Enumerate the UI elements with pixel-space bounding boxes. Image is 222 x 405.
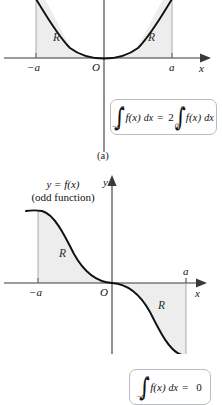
panel-odd-function: y = f(x) (odd function) R R −a O a x y ∫…	[0, 170, 222, 354]
integrand-1: f(x)	[150, 381, 165, 393]
integral-upper-limit-1: a	[145, 373, 149, 382]
integrand-2: f(x)	[186, 111, 201, 123]
integral-upper-limit-1: a	[120, 103, 124, 112]
integral-lower-limit-2: 0	[175, 122, 179, 131]
differential-1: dx	[169, 382, 178, 393]
x-axis-label: x	[195, 288, 200, 299]
integral-symbol-1: ∫ a −a	[113, 104, 124, 130]
integrand-1: f(x)	[125, 111, 140, 123]
differential-2: dx	[204, 112, 213, 123]
shaded-region-left	[36, 0, 104, 58]
equals-sign: =	[182, 381, 188, 393]
region-label-right: R	[158, 300, 165, 312]
formula-result: 0	[196, 381, 202, 393]
x-tick-label-a: a	[183, 266, 189, 277]
shaded-region-right	[104, 0, 172, 58]
integral-lower-limit-1: −a	[111, 122, 120, 131]
y-axis-label: y	[103, 177, 108, 188]
shaded-region-right	[112, 283, 186, 354]
equals-sign: =	[157, 111, 163, 123]
formula-box-even: ∫ a −a f(x) dx = 2 ∫ a 0 f(x) dx	[110, 99, 217, 135]
origin-label: O	[100, 287, 108, 298]
integral-symbol-2: ∫ a 0	[174, 104, 185, 130]
formula-even: ∫ a −a f(x) dx = 2 ∫ a 0 f(x) dx	[113, 104, 213, 130]
function-label-line-1: y = f(x)	[14, 178, 112, 191]
formula-odd: ∫ a −a f(x) dx = 0	[138, 374, 201, 400]
origin-label: O	[92, 62, 100, 73]
integral-lower-limit-1: −a	[136, 392, 145, 401]
formula-box-odd: ∫ a −a f(x) dx = 0	[129, 369, 211, 405]
plot-even-function	[0, 0, 222, 170]
panel-caption-a: (a)	[97, 150, 109, 161]
x-axis-label: x	[199, 63, 204, 74]
shaded-region-left	[38, 210, 112, 283]
function-label-line-2: (odd function)	[14, 191, 112, 204]
integral-upper-limit-2: a	[181, 103, 185, 112]
function-label: y = f(x) (odd function)	[14, 178, 112, 204]
x-tick-label-minus-a: −a	[29, 287, 42, 298]
region-label-right: R	[148, 32, 155, 44]
x-tick-label-minus-a: −a	[27, 62, 40, 73]
x-tick-label-a: a	[169, 62, 175, 73]
region-label-left: R	[53, 32, 60, 44]
integral-symbol-1: ∫ a −a	[138, 374, 149, 400]
panel-even-function: R R −a O a x ∫ a −a f(x) dx = 2 ∫ a 0	[0, 0, 222, 170]
region-label-left: R	[59, 248, 66, 260]
differential-1: dx	[144, 112, 153, 123]
